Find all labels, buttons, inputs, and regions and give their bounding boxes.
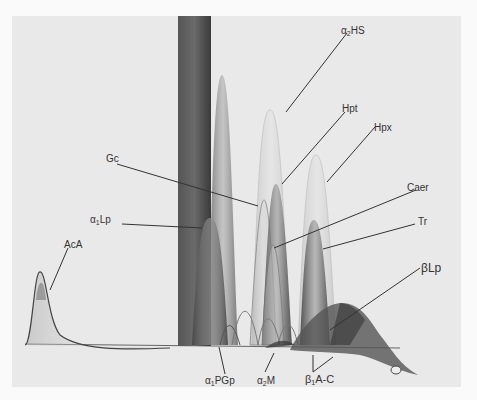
label-caer: Caer (407, 183, 429, 193)
peak-aca (25, 272, 170, 349)
label-tr: Tr (418, 217, 427, 227)
label-aca: AcA (64, 240, 82, 250)
label-hpx: Hpx (374, 123, 392, 133)
label-a2hs: α2HS (341, 26, 365, 37)
label-a1pgp: α1PGp (205, 376, 235, 387)
label-a1lp: α1Lp (90, 215, 111, 226)
label-blp: βLp (421, 262, 441, 274)
label-gc: Gc (106, 154, 119, 164)
immunoelectrophoresis-plot (0, 0, 477, 400)
label-hpt: Hpt (342, 104, 358, 114)
label-a2m: α2M (257, 376, 275, 387)
label-b1ac: β1A-C (305, 374, 334, 386)
